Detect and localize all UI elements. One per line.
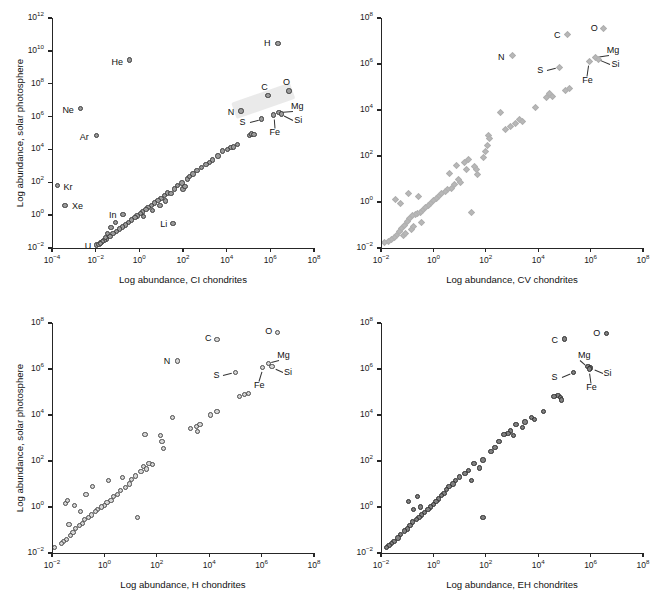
leader-line-Si (601, 61, 610, 66)
x-axis-line (52, 553, 314, 554)
y-tick (48, 506, 52, 507)
element-label-S: S (240, 118, 246, 127)
data-point-S (556, 64, 563, 71)
data-point-C (214, 337, 219, 342)
data-point-N (508, 52, 515, 59)
x-tick (209, 553, 210, 557)
x-tick-label: 10−2 (363, 256, 399, 265)
x-tick (433, 248, 434, 252)
y-tick-label: 106 (337, 59, 373, 68)
element-label-Fe: Fe (582, 76, 593, 85)
x-tick-label: 10−2 (34, 561, 70, 570)
x-tick-label: 106 (573, 561, 609, 570)
y-tick-label: 100 (337, 197, 373, 206)
data-point (225, 147, 230, 152)
x-axis-title: Log abundance, CI chondrites (52, 274, 314, 285)
data-point (135, 515, 140, 520)
y-tick (48, 322, 52, 323)
y-tick (48, 17, 52, 18)
data-point (195, 429, 200, 434)
abundance-comparison-figure: HHeNeArKrXeInLiUNCOSFeMgSi10−21001021041… (0, 0, 666, 610)
data-point-C (265, 93, 270, 98)
data-point (418, 219, 425, 226)
y-tick (377, 368, 381, 369)
data-point-Fe (260, 365, 265, 370)
x-tick (182, 248, 183, 252)
element-label-N: N (164, 357, 171, 366)
x-tick-label: 102 (468, 256, 504, 265)
data-point (150, 208, 155, 213)
data-point-O (600, 25, 607, 32)
data-point (415, 494, 420, 499)
data-point (157, 203, 162, 208)
x-tick (433, 553, 434, 557)
x-tick-label: 104 (209, 256, 245, 265)
element-label-N: N (498, 53, 505, 62)
x-tick-label: 108 (296, 561, 332, 570)
y-axis-title: Log abundance, solar photosphere (14, 323, 25, 553)
data-point (480, 457, 485, 462)
chart-panel-panel-cl: HHeNeArKrXeInLiUNCOSFeMgSi10−21001021041… (0, 0, 333, 305)
y-axis-title: Log abundance, solar photosphere (14, 18, 25, 248)
data-point (551, 394, 556, 399)
x-tick (380, 553, 381, 557)
y-tick-label: 10−2 (337, 548, 373, 557)
data-point (65, 498, 70, 503)
x-tick (139, 248, 140, 252)
data-point (418, 504, 423, 509)
element-label-O: O (283, 78, 290, 87)
element-label-Si: Si (294, 116, 302, 125)
data-point (168, 191, 173, 196)
data-point (519, 118, 526, 125)
y-axis-line (381, 18, 382, 248)
data-point (446, 170, 453, 177)
data-point-Kr (55, 183, 60, 188)
element-label-O: O (265, 327, 272, 336)
data-point (559, 397, 564, 402)
y-tick (377, 109, 381, 110)
data-point-N (238, 108, 243, 113)
data-point (133, 473, 138, 478)
x-tick (642, 553, 643, 557)
x-tick (226, 248, 227, 252)
data-point (66, 522, 71, 527)
data-point (251, 132, 256, 137)
x-axis-title: Log abundance, CV chondrites (381, 274, 643, 285)
leader-line-Mg (283, 111, 293, 113)
x-tick-label: 108 (625, 561, 661, 570)
x-tick (270, 248, 271, 252)
x-tick-label: 100 (121, 256, 157, 265)
data-point-Xe (62, 203, 67, 208)
data-point-H (275, 41, 280, 46)
x-tick-label: 104 (520, 256, 556, 265)
data-point (237, 394, 242, 399)
x-tick-label: 10−4 (34, 256, 70, 265)
element-label-C: C (554, 31, 561, 40)
x-tick (590, 248, 591, 252)
data-point (182, 184, 187, 189)
data-point (488, 449, 493, 454)
x-tick-label: 102 (468, 561, 504, 570)
y-axis-line (52, 18, 53, 248)
data-point (496, 439, 501, 444)
y-tick-label: 102 (337, 151, 373, 160)
element-label-C: C (205, 334, 212, 343)
data-point (108, 225, 113, 230)
x-tick (590, 553, 591, 557)
data-point-In (120, 212, 125, 217)
y-tick (377, 201, 381, 202)
element-label-S: S (213, 371, 219, 380)
y-tick (48, 182, 52, 183)
data-point (208, 412, 213, 417)
y-tick-label: 10−2 (337, 243, 373, 252)
element-label-O: O (591, 24, 598, 33)
leader-line-S (547, 68, 556, 71)
data-point (522, 419, 527, 424)
element-label-Xe: Xe (72, 202, 83, 211)
y-tick (377, 506, 381, 507)
x-tick (156, 553, 157, 557)
element-label-Ar: Ar (80, 133, 89, 142)
leader-line-Si (275, 368, 283, 372)
leader-line-Fe (273, 119, 275, 128)
element-label-Si: Si (604, 369, 612, 378)
